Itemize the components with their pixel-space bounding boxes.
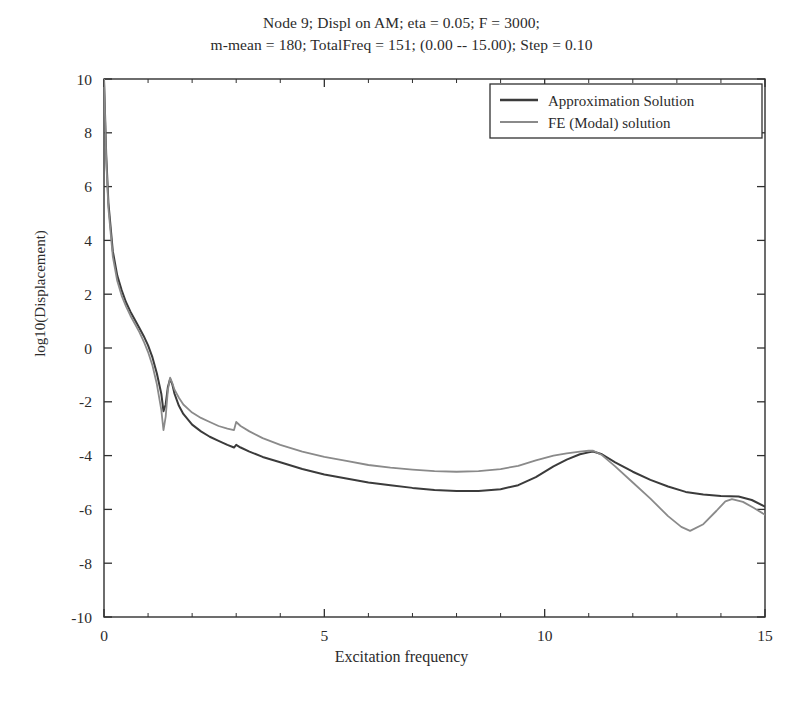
x-tick-label: 15 [757, 627, 773, 644]
x-axis-label: Excitation frequency [0, 648, 803, 666]
axes-box [104, 79, 765, 617]
axes-frame [104, 79, 765, 617]
x-tick-label: 5 [320, 627, 328, 644]
y-tick-label: -4 [79, 447, 92, 464]
y-tick-label: 8 [84, 124, 92, 141]
y-tick-label: -2 [79, 393, 92, 410]
figure-canvas: Node 9; Displ on AM; eta = 0.05; F = 300… [0, 0, 803, 701]
x-tick-label: 10 [537, 627, 553, 644]
plot-area: 051015 -10-8-6-4-20246810 Approximation … [0, 0, 803, 701]
x-tick-label: 0 [100, 627, 108, 644]
y-tick-label: 2 [84, 286, 92, 303]
legend-label: Approximation Solution [548, 93, 695, 109]
y-tick-label: 10 [77, 71, 93, 88]
y-tick-label: 4 [84, 232, 92, 249]
chart-legend: Approximation SolutionFE (Modal) solutio… [490, 84, 762, 138]
y-tick-label: 6 [84, 178, 92, 195]
y-tick-label: -6 [79, 501, 92, 518]
y-axis-label: log10(Displacement) [32, 194, 49, 394]
y-tick-label: -8 [79, 555, 92, 572]
y-tick-label: -10 [71, 609, 92, 626]
y-tick-label: 0 [84, 340, 92, 357]
legend-label: FE (Modal) solution [548, 115, 671, 132]
